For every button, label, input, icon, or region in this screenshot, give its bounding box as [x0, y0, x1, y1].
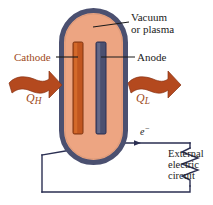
heat-in-symbol: Q	[26, 91, 35, 105]
vacuum-or-plasma-label: Vacuum or plasma	[131, 12, 174, 35]
vacuum-label-line1: Vacuum	[131, 12, 174, 24]
external-circuit-label: External electric circuit	[168, 148, 204, 181]
heat-out-symbol: Q	[136, 91, 145, 105]
electron-flow-arrow	[134, 140, 141, 145]
heat-out-subscript: L	[145, 96, 150, 106]
electron-superscript: −	[144, 124, 149, 133]
return-wire-bottom	[42, 186, 190, 192]
figure-canvas: Vacuum or plasma Cathode Anode QH QL e− …	[0, 0, 213, 205]
external-label-line3: circuit	[168, 170, 204, 181]
external-label-line2: electric	[168, 159, 204, 170]
cathode-rod	[73, 42, 83, 134]
anode-rod	[96, 42, 106, 134]
vessel-wall	[62, 11, 126, 163]
anode-label: Anode	[137, 52, 166, 64]
capsule-vessel	[62, 11, 126, 163]
external-label-line1: External	[168, 148, 204, 159]
cathode-label: Cathode	[14, 52, 51, 64]
vacuum-label-line2: or plasma	[131, 24, 174, 36]
electron-label: e−	[140, 125, 150, 137]
heat-in-label: QH	[26, 92, 41, 107]
heat-out-label: QL	[136, 92, 150, 107]
heat-in-subscript: H	[35, 96, 42, 106]
